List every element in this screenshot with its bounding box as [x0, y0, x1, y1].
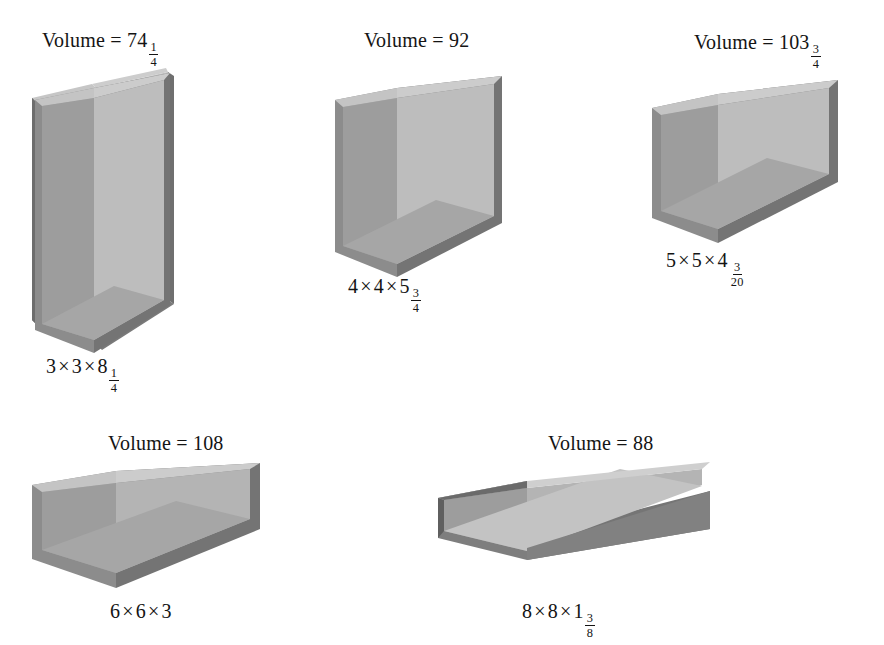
figure-1-dim-c: 8	[97, 355, 107, 377]
figure-2-box-render	[326, 72, 536, 302]
times-icon: ×	[558, 600, 573, 622]
fraction-numerator: 3	[733, 261, 742, 275]
figure-1-volume-label: Volume = 7414	[42, 30, 158, 69]
figure-1-volume-fraction: 14	[149, 41, 158, 68]
figure-1-volume-text: Volume = 74	[42, 29, 147, 51]
figure-3-box-render	[640, 78, 870, 278]
figure-3-volume-label: Volume = 10334	[694, 32, 821, 71]
times-icon: ×	[146, 600, 161, 622]
figure-2-dimensions-label: 4×4×534	[348, 276, 421, 315]
fraction-numerator: 1	[109, 367, 118, 381]
figure-2-dim-c: 5	[399, 275, 409, 297]
fraction-numerator: 3	[411, 287, 420, 301]
figure-5-volume-text: Volume = 88	[548, 432, 653, 454]
times-icon: ×	[676, 249, 691, 271]
figure-1: Volume = 7414 3×3×814	[0, 0, 240, 400]
fraction-numerator: 1	[149, 41, 158, 55]
times-icon: ×	[532, 600, 547, 622]
figure-1-dimensions-label: 3×3×814	[46, 356, 119, 395]
figure-5-box-render	[424, 455, 764, 600]
figure-4-dim-c: 3	[161, 600, 171, 622]
times-icon: ×	[384, 275, 399, 297]
times-icon: ×	[82, 355, 97, 377]
fraction-denominator: 20	[729, 275, 745, 288]
figure-2-dim-b: 4	[374, 275, 384, 297]
fraction-denominator: 8	[585, 626, 594, 639]
figure-2: Volume = 92 4×4×534	[300, 0, 580, 320]
figure-4-dim-b: 6	[136, 600, 146, 622]
fraction-denominator: 4	[109, 381, 118, 394]
figure-2-volume-label: Volume = 92	[364, 30, 469, 50]
figure-2-volume-text: Volume = 92	[364, 29, 469, 51]
figure-1-dim-b: 3	[72, 355, 82, 377]
figure-5-volume-label: Volume = 88	[548, 433, 653, 453]
fraction-denominator: 4	[149, 55, 158, 68]
figure-3-dim-fraction: 320	[729, 261, 745, 288]
figure-3-dimensions-label: 5×5×4320	[666, 250, 745, 289]
figure-2-dim-a: 4	[348, 275, 358, 297]
times-icon: ×	[358, 275, 373, 297]
figure-3: Volume = 10334 5×5×4320	[610, 0, 884, 300]
figure-5-dim-fraction: 38	[585, 612, 594, 639]
figure-5-dim-c: 1	[573, 600, 583, 622]
figure-5-dim-b: 8	[548, 600, 558, 622]
times-icon: ×	[702, 249, 717, 271]
figure-5: Volume = 88 8×8×138	[400, 415, 760, 645]
fraction-denominator: 4	[411, 301, 420, 314]
figure-4: Volume = 108 6×6×3	[20, 415, 320, 645]
fraction-numerator: 3	[811, 43, 820, 57]
figure-4-dim-a: 6	[110, 600, 120, 622]
figure-3-volume-fraction: 34	[811, 43, 820, 70]
fraction-denominator: 4	[811, 57, 820, 70]
figure-1-dim-a: 3	[46, 355, 56, 377]
figure-1-box-render	[22, 68, 222, 368]
figure-4-volume-text: Volume = 108	[108, 432, 224, 454]
figure-5-dim-a: 8	[522, 600, 532, 622]
figure-3-dim-a: 5	[666, 249, 676, 271]
figure-4-dimensions-label: 6×6×3	[110, 601, 172, 621]
fraction-numerator: 3	[585, 612, 594, 626]
figure-1-dim-fraction: 14	[109, 367, 118, 394]
figure-3-volume-text: Volume = 103	[694, 31, 810, 53]
figure-2-dim-fraction: 34	[411, 287, 420, 314]
figure-3-dim-c: 4	[717, 249, 727, 271]
figure-4-box-render	[28, 463, 288, 603]
f5-left-band	[438, 498, 444, 538]
figure-5-dimensions-label: 8×8×138	[522, 601, 595, 640]
figure-4-volume-label: Volume = 108	[108, 433, 224, 453]
figure-3-dim-b: 5	[692, 249, 702, 271]
times-icon: ×	[120, 600, 135, 622]
times-icon: ×	[56, 355, 71, 377]
